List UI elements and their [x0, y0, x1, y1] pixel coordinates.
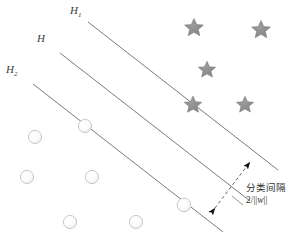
circle-point: [85, 170, 98, 183]
annotation-leader-line: [232, 196, 243, 205]
circle-point: [28, 130, 41, 143]
circle-point: [78, 119, 91, 132]
hyperplane-h1-label-text: H: [70, 4, 78, 16]
star-point: [236, 96, 253, 112]
margin-annotation: 分类间隔 2/||w||: [246, 183, 304, 206]
margin-formula-prefix: 2/||: [246, 195, 257, 205]
hyperplane-h-label-text: H: [37, 32, 45, 44]
margin-formula-suffix: ||: [264, 195, 268, 205]
star-point: [198, 61, 215, 77]
star-point: [185, 19, 204, 36]
svm-margin-figure: H1 H H2 分类间隔 2/||w||: [0, 0, 305, 250]
hyperplane-h2-label-text: H: [6, 63, 14, 75]
circle-point: [20, 170, 33, 183]
hyperplane-h-label: H: [37, 33, 45, 44]
circle-point: [129, 215, 142, 228]
hyperplane-h2-label: H2: [6, 64, 17, 78]
margin-double-arrow: [215, 162, 250, 208]
margin-annotation-text: 分类间隔: [246, 183, 304, 194]
hyperplane-h1-label: H1: [70, 5, 81, 19]
hyperplane-h1-label-subscript: 1: [78, 11, 82, 19]
star-point: [252, 21, 271, 38]
circle-point: [63, 215, 76, 228]
class-negative-points: [20, 119, 190, 228]
svm-diagram-canvas: [0, 0, 305, 250]
hyperplane-h1-line: [88, 22, 278, 170]
circle-point-support-vector: [177, 198, 191, 212]
margin-annotation-formula: 2/||w||: [246, 195, 304, 206]
hyperplane-h2-label-subscript: 2: [14, 70, 18, 78]
class-positive-points: [184, 19, 270, 113]
